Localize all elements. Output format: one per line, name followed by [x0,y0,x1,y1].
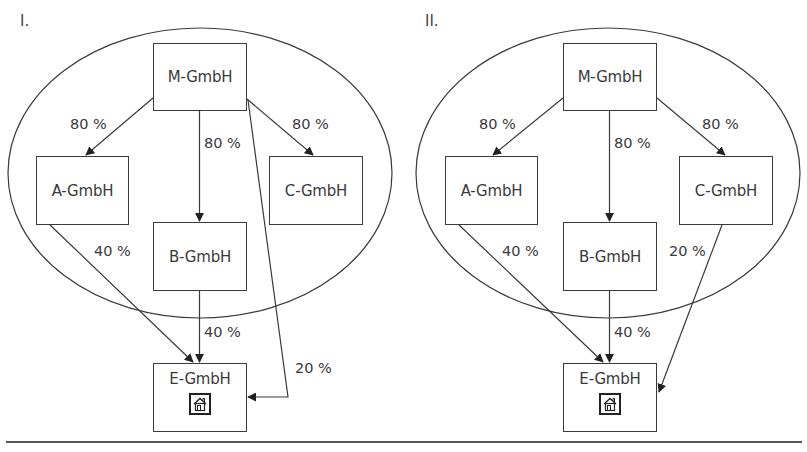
company-box-m-gmbh: M-GmbH [563,43,657,111]
company-box-a-gmbh: A-GmbH [445,156,538,225]
house-icon [599,393,621,415]
share-label-m-e: 20 % [295,360,332,376]
company-box-e-gmbh: E-GmbH [563,363,657,432]
share-label-b-e: 40 % [614,324,651,340]
share-label-b-e: 40 % [204,324,241,340]
company-name: M-GmbH [578,68,643,86]
company-name: A-GmbH [52,182,114,200]
company-box-m-gmbh: M-GmbH [153,43,247,111]
company-box-c-gmbh: C-GmbH [679,156,773,225]
house-icon [189,393,211,415]
panel-label-1: I. [20,12,29,30]
share-label-m-b: 80 % [614,135,651,151]
share-label-m-b: 80 % [204,135,241,151]
company-name: E-GmbH [579,370,640,388]
company-box-b-gmbh: B-GmbH [563,222,657,291]
company-box-e-gmbh: E-GmbH [153,363,247,432]
company-name: E-GmbH [169,370,230,388]
share-label-m-a: 80 % [479,116,516,132]
company-name: A-GmbH [461,182,523,200]
edge-m-e [248,100,288,397]
share-label-m-c: 80 % [292,116,329,132]
share-label-a-e: 40 % [94,243,131,259]
share-label-m-c: 80 % [702,116,739,132]
share-label-c-e: 20 % [669,243,706,259]
company-name: B-GmbH [169,248,231,266]
bottom-divider [6,441,802,443]
company-box-c-gmbh: C-GmbH [269,156,363,225]
company-name: C-GmbH [285,182,347,200]
company-box-b-gmbh: B-GmbH [153,222,247,291]
company-name: M-GmbH [168,68,233,86]
diagram-canvas [0,0,807,452]
company-box-a-gmbh: A-GmbH [36,156,129,225]
panel-label-2: II. [425,12,439,30]
company-name: C-GmbH [695,182,757,200]
share-label-a-e: 40 % [502,243,539,259]
share-label-m-a: 80 % [70,116,107,132]
company-name: B-GmbH [579,248,641,266]
